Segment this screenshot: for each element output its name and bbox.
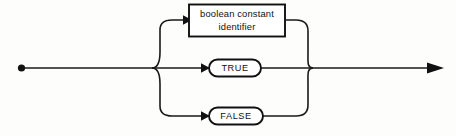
- false-oval-label: FALSE: [220, 111, 251, 121]
- fork-top-rail: [152, 20, 183, 68]
- identifier-box-label-line2: identifier: [219, 21, 256, 32]
- merge-top-rail: [285, 20, 313, 68]
- identifier-box-label-line1: boolean constant: [200, 8, 274, 19]
- railroad-diagram: boolean constant identifier TRUE FALSE: [0, 0, 456, 136]
- true-oval-label: TRUE: [221, 63, 248, 73]
- merge-bottom-rail: [263, 68, 313, 116]
- arrow-end-icon: [427, 63, 444, 74]
- fork-bottom-rail: [152, 68, 203, 116]
- railroad-diagram-svg: boolean constant identifier TRUE FALSE: [0, 0, 456, 136]
- start-dot: [18, 64, 25, 71]
